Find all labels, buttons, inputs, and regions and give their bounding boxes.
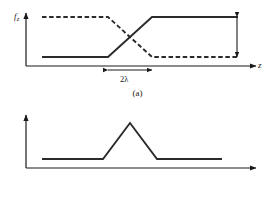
curve-fz-rising-solid (42, 17, 238, 57)
panel-a-y-axis-label: fz (14, 12, 19, 21)
panel-b-plot (0, 101, 275, 202)
curve-fx-peak-solid (42, 123, 222, 159)
figure-root: fz z 2λ (a) fx z (b) (0, 0, 275, 202)
curve-fz-falling-dashed (42, 17, 238, 57)
panel-a-x-axis-label: z (258, 61, 262, 70)
panel-b: fx z (b) (0, 101, 275, 202)
panel-a-caption: (a) (0, 89, 275, 98)
panel-a: fz z 2λ (a) (0, 0, 275, 101)
transition-width-label: 2λ (120, 75, 128, 84)
panel-a-plot (0, 0, 275, 101)
